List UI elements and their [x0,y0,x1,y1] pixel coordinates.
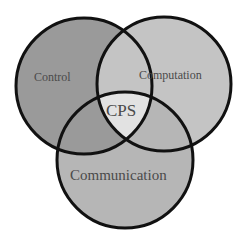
cps-label: CPS [106,101,136,120]
control-label: Control [34,70,71,84]
communication-label: Communication [70,167,167,183]
computation-label: Computation [139,68,202,82]
cps-venn-diagram: Control Computation Communication CPS [0,0,246,243]
